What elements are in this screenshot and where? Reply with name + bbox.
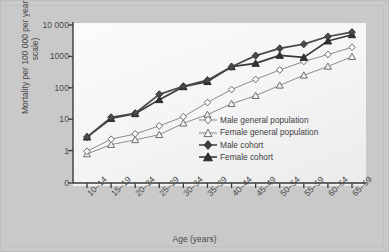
y-axis-title: Mortality per 100 000 per year (log scal… [20, 0, 40, 124]
filled-triangle-marker-icon [199, 151, 217, 163]
y-tick-label: 10 000 [42, 20, 69, 30]
legend-label: Female cohort [220, 151, 273, 163]
y-tick-label: 10 [59, 114, 69, 124]
open-diamond-marker-icon [199, 114, 217, 126]
legend-label: Female general population [220, 126, 318, 138]
legend-item-female-cohort[interactable]: Female cohort [199, 151, 318, 163]
legend-item-male-general-population[interactable]: Male general population [199, 114, 318, 126]
legend-item-male-cohort[interactable]: Male cohort [199, 139, 318, 151]
x-axis-tick-labels: 10–1415–1920–2425–2930–3435–3940–4445–49… [73, 191, 373, 231]
y-tick-label: 1000 [50, 51, 69, 61]
y-tick-label: 0 [64, 178, 69, 188]
chart-figure: 10 00010001001010 10–1415–1920–2425–2930… [0, 0, 389, 252]
filled-diamond-marker-icon [199, 139, 217, 151]
legend-label: Male general population [220, 114, 309, 126]
chart-legend: Male general population Female general p… [199, 114, 318, 164]
legend-label: Male cohort [220, 139, 263, 151]
x-axis-title: Age (years) [1, 234, 388, 244]
y-tick-label: 100 [55, 83, 69, 93]
open-triangle-marker-icon [199, 127, 217, 139]
y-tick-label: 1 [64, 146, 69, 156]
legend-item-female-general-population[interactable]: Female general population [199, 126, 318, 138]
